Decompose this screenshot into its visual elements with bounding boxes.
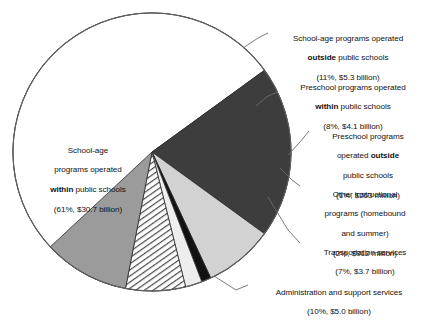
label-text: operated [337, 151, 371, 160]
label-text: public schools [336, 53, 388, 62]
label-line: Preschool programs operated [274, 83, 432, 93]
label-text: public schools [73, 185, 125, 194]
label-line: School-age programs operated [266, 34, 430, 44]
label-line: programs (homebound [300, 209, 430, 219]
label-line: operated outside [306, 151, 430, 161]
label-emphasis: outside [371, 151, 399, 160]
slice-label-school-age-within: School-age programs operated within publ… [24, 136, 152, 224]
label-line: Transportation services [300, 248, 430, 258]
label-line: Administration and support services [248, 288, 430, 298]
label-line: School-age [24, 146, 152, 156]
label-line: within public schools [24, 185, 152, 195]
label-line: within public schools [274, 102, 432, 112]
label-line: outside public schools [266, 53, 430, 63]
label-emphasis: outside [308, 53, 336, 62]
leader-line-school-age-outside [243, 33, 268, 48]
label-line: Preschool programs [306, 132, 430, 142]
label-emphasis: within [50, 185, 73, 194]
leader-line-administration [214, 276, 248, 290]
label-emphasis: within [315, 102, 338, 111]
label-line: Other instructional [300, 190, 430, 200]
label-value: (10%, $5.0 billion) [248, 307, 430, 317]
label-line: programs operated [24, 165, 152, 175]
label-text: public schools [338, 102, 390, 111]
label-value: (61%, $30.7 billion) [24, 205, 152, 215]
slice-label-administration: Administration and support services (10%… [248, 278, 430, 320]
label-value: (7%, $3.7 billion) [300, 267, 430, 277]
